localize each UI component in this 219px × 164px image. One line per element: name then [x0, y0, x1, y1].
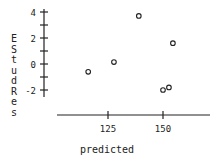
y-tick-label: -2: [25, 86, 36, 96]
y-axis-label: EStudRes: [11, 33, 18, 118]
y-label-letter: u: [11, 65, 17, 76]
data-point: [171, 41, 176, 46]
y-tick-label: 2: [31, 34, 36, 44]
data-points: [86, 14, 175, 93]
y-label-letter: E: [11, 33, 17, 44]
data-point: [167, 85, 172, 90]
x-tick-label: 150: [155, 124, 171, 134]
y-label-letter: t: [11, 54, 17, 65]
x-axis: 125150: [57, 111, 210, 134]
y-label-letter: e: [11, 96, 17, 107]
y-label-letter: d: [11, 75, 17, 86]
data-point: [86, 70, 91, 75]
scatter-chart: 420-2 125150 EStudRes predicted: [0, 0, 219, 164]
y-label-letter: s: [11, 107, 17, 118]
data-point: [161, 88, 166, 93]
y-axis: 420-2: [25, 8, 48, 98]
y-label-letter: R: [11, 86, 18, 97]
data-point: [137, 14, 142, 19]
data-point: [112, 60, 117, 65]
y-tick-label: 4: [31, 8, 36, 18]
y-tick-label: 0: [31, 60, 36, 70]
x-tick-label: 125: [100, 124, 116, 134]
x-axis-label: predicted: [80, 144, 134, 155]
y-label-letter: S: [11, 44, 17, 55]
